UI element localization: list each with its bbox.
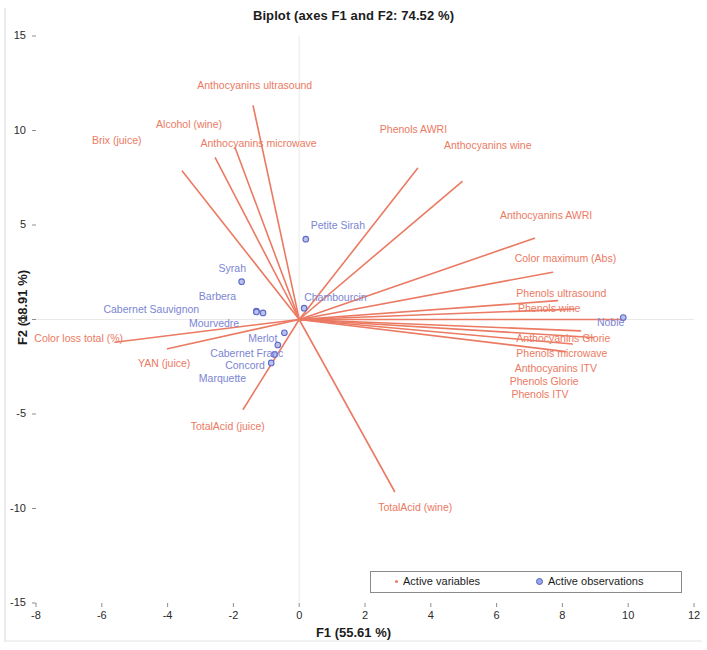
legend-marker-variable-icon [395, 580, 398, 583]
variable-label: Anthocyanins ITV [515, 363, 597, 374]
y-tick-label: 10 [0, 124, 26, 136]
variable-label: Phenols microwave [516, 348, 607, 359]
variable-label: Anthocyanins microwave [201, 138, 317, 149]
variable-label: TotalAcid (wine) [378, 502, 452, 513]
biplot-figure: Biplot (axes F1 and F2: 74.52 %) F1 (55.… [0, 0, 707, 650]
x-tick-label: -8 [16, 609, 56, 621]
observation-label: Merlot [248, 333, 277, 344]
variable-label: Phenols AWRI [380, 124, 447, 135]
variable-label: Anthocyanins ultrasound [197, 80, 312, 91]
variable-label: YAN (juice) [138, 358, 190, 369]
observation-label: Petite Sirah [311, 220, 365, 231]
y-tick-label: -5 [0, 407, 26, 419]
y-axis-title: F2 (18.91 %) [15, 228, 30, 388]
x-tick-label: 12 [674, 609, 707, 621]
x-tick-label: -2 [213, 609, 253, 621]
x-tick-label: 4 [411, 609, 451, 621]
observation-label: Concord [225, 360, 265, 371]
observation-label: Mourvedre [189, 318, 239, 329]
y-tick-label: 0 [0, 313, 26, 325]
variable-label: Anthocyanins wine [444, 140, 532, 151]
y-tick-label: -10 [0, 502, 26, 514]
x-tick-label: -6 [82, 609, 122, 621]
variable-label: Phenols ultrasound [516, 288, 606, 299]
y-tick-label: -15 [0, 596, 26, 608]
y-tick-label: 5 [0, 218, 26, 230]
legend-item-active-variables: Active variables [395, 575, 480, 587]
x-tick-label: -4 [148, 609, 188, 621]
observation-label: Barbera [199, 291, 236, 302]
variable-label: TotalAcid (juice) [191, 421, 265, 432]
observation-label: Syrah [219, 263, 246, 274]
observation-label: Marquette [199, 373, 246, 384]
legend-label-observations: Active observations [548, 575, 643, 587]
variable-label: Phenols Glorie [510, 376, 579, 387]
observation-label: Chambourcin [304, 292, 366, 303]
x-tick-label: 0 [279, 609, 319, 621]
legend-label-variables: Active variables [403, 575, 480, 587]
variable-label: Anthocyanins AWRI [500, 210, 592, 221]
x-axis-title: F1 (55.61 %) [0, 625, 707, 640]
x-tick-label: 2 [345, 609, 385, 621]
variable-label: Anthocyanins Glorie [516, 333, 610, 344]
variable-label: Brix (juice) [92, 135, 142, 146]
observation-label: Cabernet Franc [210, 348, 283, 359]
variable-label: Phenols ITV [511, 389, 568, 400]
variable-label: Alcohol (wine) [156, 119, 222, 130]
x-tick-label: 10 [608, 609, 648, 621]
x-tick-label: 6 [477, 609, 517, 621]
legend-marker-observation-icon [536, 578, 543, 585]
variable-label: Color maximum (Abs) [515, 253, 617, 264]
observation-label: Cabernet Sauvignon [103, 304, 199, 315]
legend: Active variables Active observations [370, 571, 682, 593]
variable-label: Phenols wine [518, 303, 580, 314]
legend-item-active-observations: Active observations [536, 575, 643, 587]
y-tick-label: 15 [0, 29, 26, 41]
observation-label: Noble [597, 317, 624, 328]
variable-label: Color loss total (%) [34, 333, 123, 344]
x-tick-label: 8 [542, 609, 582, 621]
